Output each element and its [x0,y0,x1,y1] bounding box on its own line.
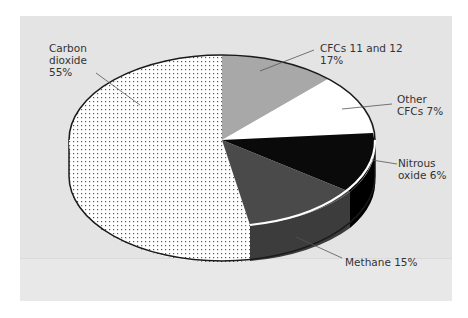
label-carbon-dioxide: Carbon dioxide 55% [49,42,87,78]
label-nitrous-oxide: Nitrous oxide 6% [398,157,446,181]
pie-top-face [69,55,375,226]
label-cfcs-11-and-12: CFCs 11 and 12 17% [320,42,403,66]
label-other-cfcs: Other CFCs 7% [397,93,443,117]
label-methane: Methane 15% [345,256,418,268]
